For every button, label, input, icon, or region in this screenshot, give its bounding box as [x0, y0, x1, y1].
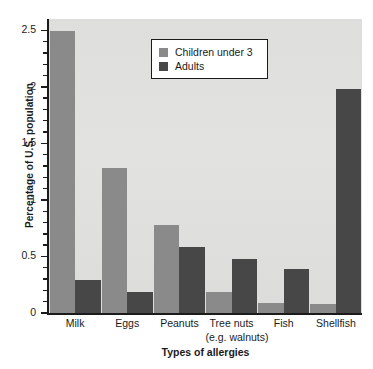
x-tick-label: Tree nuts	[206, 317, 258, 329]
y-tick-major	[41, 86, 48, 88]
y-tick-label: 0.5	[12, 249, 36, 261]
y-tick-major	[41, 256, 48, 258]
x-tick-label: Peanuts	[153, 317, 205, 329]
y-tick-minor	[43, 97, 48, 98]
y-tick-minor	[43, 177, 48, 178]
y-tick-minor	[43, 222, 48, 223]
bar-milk-adults	[75, 280, 101, 313]
bar-fish-adults	[284, 269, 310, 313]
y-tick-minor	[43, 64, 48, 65]
bar-tree-nuts-children	[206, 292, 232, 313]
legend-swatch-icon-children	[159, 48, 168, 57]
bar-fish-children	[258, 303, 284, 313]
bar-eggs-children	[102, 168, 128, 313]
x-axis-line	[47, 313, 362, 315]
x-axis-title: Types of allergies	[49, 346, 362, 358]
y-tick-label: 2.5	[12, 23, 36, 35]
bar-chart-figure: Percentage of U.S. population 00.511.522…	[0, 0, 373, 369]
y-tick-label: 1	[12, 193, 36, 205]
y-tick-minor	[43, 244, 48, 245]
y-tick-minor	[43, 131, 48, 132]
y-tick-minor	[43, 267, 48, 268]
y-tick-minor	[43, 233, 48, 234]
y-tick-minor	[43, 41, 48, 42]
x-tick-label: Milk	[49, 317, 101, 329]
y-tick-label: 0	[12, 306, 36, 318]
y-tick-label: 1.5	[12, 136, 36, 148]
y-tick-minor	[43, 211, 48, 212]
bar-shellfish-children	[310, 304, 336, 313]
x-tick-label: Shellfish	[310, 317, 362, 329]
y-tick-major	[41, 312, 48, 314]
y-tick-minor	[43, 165, 48, 166]
y-tick-minor	[43, 278, 48, 279]
x-tick-label: Eggs	[101, 317, 153, 329]
y-tick-minor	[43, 301, 48, 302]
x-tick-sublabel: (e.g. walnuts)	[206, 331, 258, 343]
y-axis-title: Percentage of U.S. population	[24, 31, 35, 281]
x-tick-label: Fish	[258, 317, 310, 329]
y-tick-major	[41, 199, 48, 201]
bar-tree-nuts-adults	[232, 259, 258, 313]
bar-shellfish-adults	[336, 89, 362, 313]
y-tick-minor	[43, 52, 48, 53]
y-tick-minor	[43, 154, 48, 155]
legend-item-children: Children under 3	[159, 45, 253, 59]
y-tick-minor	[43, 109, 48, 110]
bar-peanuts-children	[154, 225, 180, 313]
bar-peanuts-adults	[179, 247, 205, 313]
legend-label-children: Children under 3	[175, 46, 253, 58]
legend-item-adults: Adults	[159, 59, 253, 73]
chart-legend: Children under 3 Adults	[151, 39, 268, 79]
y-tick-major	[41, 143, 48, 145]
y-tick-minor	[43, 75, 48, 76]
y-tick-minor	[43, 188, 48, 189]
bar-eggs-adults	[127, 292, 153, 313]
legend-swatch-icon-adults	[159, 62, 168, 71]
y-tick-minor	[43, 120, 48, 121]
y-tick-label: 2	[12, 80, 36, 92]
y-tick-minor	[43, 290, 48, 291]
legend-label-adults: Adults	[175, 60, 204, 72]
y-tick-major	[41, 30, 48, 32]
bar-milk-children	[50, 31, 76, 313]
